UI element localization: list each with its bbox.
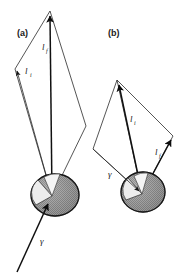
panel-a-gamma-label: γ	[40, 236, 44, 246]
panel-a-vector-lf	[50, 16, 52, 196]
panel-b-li-label: l	[130, 114, 133, 124]
vector-diagram: (a) l i l f γ	[0, 0, 185, 278]
panel-a-lf-label: l	[42, 42, 45, 52]
panel-a: (a) l i l f γ	[15, 11, 86, 272]
panel-b: (b) l i l f γ	[93, 28, 173, 212]
panel-b-gamma-label: γ	[108, 169, 112, 179]
panel-b-lf-label: l	[155, 147, 158, 157]
panel-b-label: (b)	[108, 28, 120, 38]
panel-a-lf-sub: f	[46, 48, 49, 54]
panel-a-label: (a)	[17, 28, 28, 38]
panel-b-sphere	[121, 172, 165, 212]
figure-root: (a) l i l f γ	[0, 0, 185, 278]
panel-a-li-label: l	[25, 66, 28, 76]
panel-a-sphere	[31, 174, 79, 216]
panel-a-li-sub: i	[30, 72, 32, 78]
panel-b-li-sub: i	[134, 120, 136, 126]
panel-b-gamma-ray	[93, 149, 139, 191]
